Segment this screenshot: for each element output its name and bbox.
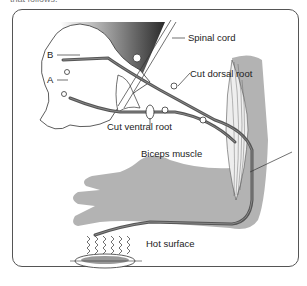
label-a: A xyxy=(47,74,54,85)
label-biceps-muscle: Biceps muscle xyxy=(141,148,202,159)
label-spinal-cord: Spinal cord xyxy=(188,32,236,43)
hot-surface-icon xyxy=(70,236,142,268)
reflex-arc-diagram: Spinal cord B A Cut dorsal root Cut vent… xyxy=(0,0,307,286)
label-hot-surface: Hot surface xyxy=(146,238,195,249)
label-b: B xyxy=(47,49,53,60)
label-cut-ventral-root: Cut ventral root xyxy=(107,121,172,132)
label-cut-dorsal-root: Cut dorsal root xyxy=(190,68,253,79)
